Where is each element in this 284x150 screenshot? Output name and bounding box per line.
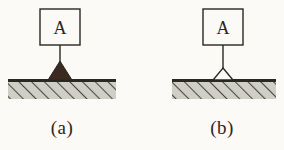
panel-a-caption: (a) [22, 118, 102, 137]
panel-b-caption: (b) [182, 118, 262, 137]
panel-b: A [172, 9, 276, 99]
block-b-letter: A [217, 18, 230, 38]
ground-hatch-a [8, 80, 116, 99]
pin-support-b [213, 68, 233, 80]
panel-a: A [8, 9, 116, 99]
block-a-letter: A [54, 18, 67, 38]
ground-hatch-b [172, 80, 276, 99]
knife-edge-support-a [48, 61, 72, 80]
figure-root: A A (a) (b) [0, 0, 284, 150]
